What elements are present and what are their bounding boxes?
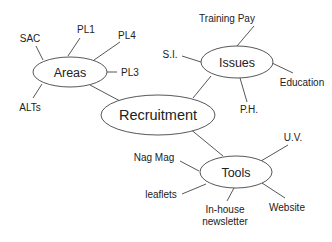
node-tools: Tools: [200, 156, 272, 188]
edge-tools-leaflets: [182, 184, 206, 194]
leaf-pl1: PL1: [77, 24, 95, 35]
recruitment-label: Recruitment: [119, 107, 197, 123]
edge-issues-si: [182, 56, 201, 62]
edge-issues-training-pay: [237, 26, 254, 46]
edge-issues-ph: [240, 78, 247, 102]
edge-tools-recruitment: [189, 128, 223, 156]
leaf-alts: ALTs: [19, 102, 41, 113]
edge-areas-pl1: [68, 38, 80, 56]
edge-tools-uv: [261, 145, 288, 161]
issues-label: Issues: [219, 56, 255, 70]
leaf-uv: U.V.: [284, 132, 303, 143]
mind-map-diagram: Areas Issues Tools Recruitment SAC PL1 P…: [0, 0, 332, 242]
node-recruitment: Recruitment: [101, 95, 215, 135]
leaf-ph: P.H.: [240, 104, 258, 115]
edge-tools-inhouse: [227, 188, 234, 201]
areas-label: Areas: [54, 66, 87, 80]
edge-areas-alts: [33, 84, 42, 98]
leaf-pl3: PL3: [121, 67, 139, 78]
leaf-si: S.I.: [162, 49, 177, 60]
leaf-sac: SAC: [20, 33, 41, 44]
leaf-training-pay: Training Pay: [199, 13, 255, 24]
edge-tools-website: [262, 183, 285, 198]
tools-label: Tools: [221, 166, 250, 180]
edge-issues-education: [272, 63, 293, 73]
leaf-website: Website: [269, 202, 305, 213]
leaf-leaflets: leaflets: [145, 189, 177, 200]
node-issues: Issues: [201, 46, 273, 78]
leaf-inhouse-line1: In-house: [206, 204, 245, 215]
leaf-education: Education: [280, 77, 324, 88]
edge-areas-pl4: [94, 42, 120, 60]
edge-areas-sac: [36, 46, 43, 60]
edge-issues-recruitment: [193, 76, 211, 98]
node-areas: Areas: [33, 57, 107, 87]
edge-areas-recruitment: [90, 85, 120, 101]
edge-tools-nag-mag: [180, 161, 199, 171]
leaf-inhouse-line2: newsletter: [202, 216, 248, 227]
leaf-nag-mag: Nag Mag: [134, 152, 175, 163]
leaf-pl4: PL4: [118, 30, 136, 41]
